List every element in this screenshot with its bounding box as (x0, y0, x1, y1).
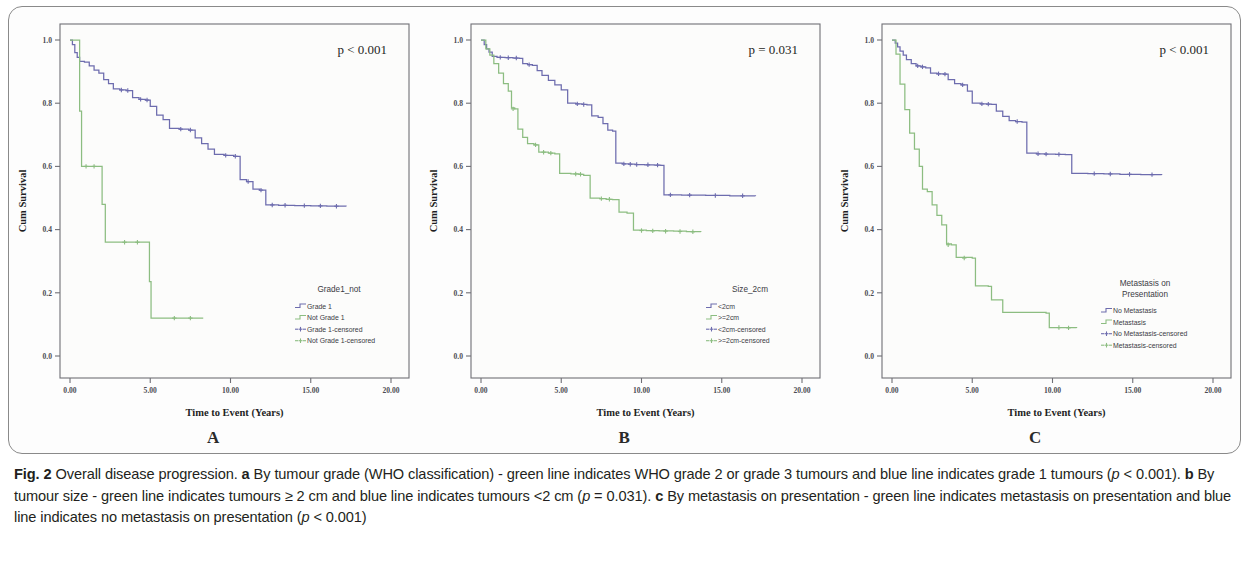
x-tick-label: 20.00 (793, 386, 810, 395)
x-axis-title: Time to Event (Years) (1007, 407, 1106, 419)
legend-entry-label: <2cm (718, 303, 735, 310)
caption-a-tail: < 0.001). (1120, 466, 1181, 482)
legend-entry-label: Not Grade 1 (307, 314, 345, 321)
legend-title: Presentation (1122, 290, 1168, 299)
y-tick-label: 0.4 (865, 225, 875, 234)
y-tick-label: 0.0 (43, 352, 53, 361)
x-tick-label: 15.00 (1124, 386, 1141, 395)
figure-container: 1.00.80.60.40.20.00.005.0010.0015.0020.0… (0, 0, 1249, 565)
y-tick-label: 0.0 (865, 352, 875, 361)
legend-entry-label: >=2cm (718, 314, 739, 321)
legend-entry-label: Not Grade 1-censored (307, 337, 375, 344)
y-tick-label: 0.0 (454, 352, 464, 361)
y-tick-label: 1.0 (43, 36, 53, 45)
caption-marker-a: a (242, 466, 250, 482)
caption-a-body: By tumour grade (WHO classification) - g… (254, 466, 1112, 482)
legend-entry-label: No Metastasis-censored (1113, 330, 1187, 337)
y-tick-label: 1.0 (865, 36, 875, 45)
x-tick-label: 15.00 (713, 386, 730, 395)
caption-fig-label: Fig. 2 (14, 466, 52, 482)
legend-title: Grade1_not (317, 285, 361, 294)
x-tick-label: 10.00 (1044, 386, 1061, 395)
p-value-annotation: p < 0.001 (337, 42, 387, 57)
p-value-annotation: p < 0.001 (1159, 42, 1209, 57)
legend-entry-label: Grade 1-censored (307, 326, 363, 333)
x-tick-label: 15.00 (302, 386, 319, 395)
legend-entry-label: <2cm-censored (718, 326, 766, 333)
x-tick-label: 10.00 (633, 386, 650, 395)
x-tick-label: 5.00 (555, 386, 568, 395)
kaplan-meier-plot-b: 1.00.80.60.40.20.00.005.0010.0015.0020.0… (419, 6, 830, 454)
panel-row: 1.00.80.60.40.20.00.005.0010.0015.0020.0… (8, 6, 1241, 454)
y-tick-label: 1.0 (454, 36, 464, 45)
y-tick-label: 0.6 (43, 162, 53, 171)
caption-a-p: p (1112, 466, 1120, 482)
y-tick-label: 0.6 (454, 162, 464, 171)
x-tick-label: 20.00 (382, 386, 399, 395)
caption-b-tail: = 0.031). (590, 488, 651, 504)
p-value-annotation: p = 0.031 (748, 42, 798, 57)
figure-caption: Fig. 2 Overall disease progression. a By… (14, 464, 1238, 529)
x-tick-label: 0.00 (63, 386, 76, 395)
legend-entry-label: Metastasis-censored (1113, 342, 1177, 349)
y-tick-label: 0.2 (43, 289, 53, 298)
caption-b-p: p (582, 488, 590, 504)
panel-letter-b: B (419, 428, 830, 448)
legend-entry-label: Metastasis (1113, 319, 1146, 326)
plot-frame (471, 24, 820, 378)
kaplan-meier-plot-c: 1.00.80.60.40.20.00.005.0010.0015.0020.0… (830, 6, 1241, 454)
x-axis-title: Time to Event (Years) (185, 407, 284, 419)
legend-entry-label: >=2cm-censored (718, 337, 770, 344)
panel-c: 1.00.80.60.40.20.00.005.0010.0015.0020.0… (830, 6, 1241, 454)
panel-b: 1.00.80.60.40.20.00.005.0010.0015.0020.0… (419, 6, 830, 454)
y-axis-title: Cum Survival (428, 170, 439, 233)
legend-title: Size_2cm (732, 285, 768, 294)
y-tick-label: 0.6 (865, 162, 875, 171)
y-tick-label: 0.8 (43, 99, 53, 108)
x-tick-label: 10.00 (222, 386, 239, 395)
panel-a: 1.00.80.60.40.20.00.005.0010.0015.0020.0… (8, 6, 419, 454)
y-tick-label: 0.2 (454, 289, 464, 298)
y-tick-label: 0.8 (865, 99, 875, 108)
y-axis-title: Cum Survival (17, 170, 28, 233)
plot-frame (882, 24, 1231, 378)
kaplan-meier-plot-a: 1.00.80.60.40.20.00.005.0010.0015.0020.0… (8, 6, 419, 454)
legend-title: Metastasis on (1120, 279, 1171, 288)
caption-lead-text: Overall disease progression. (55, 466, 237, 482)
y-axis-title: Cum Survival (839, 170, 850, 233)
y-tick-label: 0.2 (865, 289, 875, 298)
legend-entry-label: No Metastasis (1113, 307, 1157, 314)
legend-entry-label: Grade 1 (307, 303, 332, 310)
caption-c-tail: < 0.001) (309, 509, 366, 525)
x-tick-label: 20.00 (1204, 386, 1221, 395)
x-axis-title: Time to Event (Years) (596, 407, 695, 419)
x-tick-label: 0.00 (885, 386, 898, 395)
x-tick-label: 5.00 (966, 386, 979, 395)
x-tick-label: 5.00 (144, 386, 157, 395)
y-tick-label: 0.4 (454, 225, 464, 234)
y-tick-label: 0.4 (43, 225, 53, 234)
panel-letter-c: C (830, 428, 1241, 448)
y-tick-label: 0.8 (454, 99, 464, 108)
x-tick-label: 0.00 (474, 386, 487, 395)
panel-letter-a: A (8, 428, 419, 448)
